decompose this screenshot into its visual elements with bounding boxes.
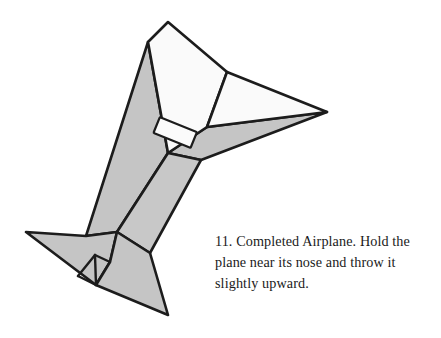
caption-line-1: 11. Completed Airplane. Hold the: [215, 231, 420, 252]
caption: 11. Completed Airplane. Hold the plane n…: [215, 231, 420, 294]
caption-line-3: slightly upward.: [215, 273, 420, 294]
caption-line-2: plane near its nose and throw it: [215, 252, 420, 273]
crease-tail-small-fold-c: [95, 255, 96, 285]
